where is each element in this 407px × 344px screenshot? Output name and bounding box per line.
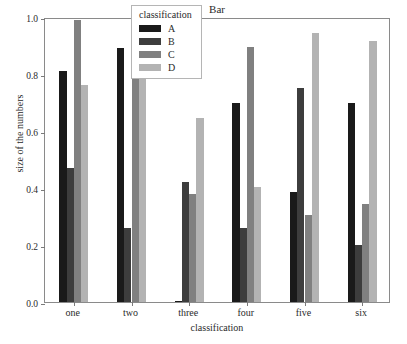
y-tick-mark xyxy=(41,19,45,20)
bar-six-B xyxy=(355,245,362,302)
bar-one-A xyxy=(59,71,66,302)
bar-six-D xyxy=(369,41,376,302)
y-tick-mark xyxy=(41,304,45,305)
y-tick-mark xyxy=(41,190,45,191)
x-tick-mark xyxy=(247,302,248,306)
legend-swatch-C xyxy=(139,51,161,58)
bar-two-B xyxy=(124,228,131,302)
legend: classification ABCD xyxy=(131,5,202,79)
y-axis-label: size of the numbers xyxy=(14,54,25,214)
legend-item-A: A xyxy=(139,22,192,35)
bar-one-B xyxy=(67,168,74,302)
x-tick-label: three xyxy=(158,307,218,318)
bar-five-A xyxy=(290,192,297,302)
x-tick-label: six xyxy=(331,307,391,318)
bar-one-D xyxy=(81,85,88,302)
bar-three-B xyxy=(182,182,189,302)
x-tick-label: two xyxy=(101,307,161,318)
legend-title: classification xyxy=(139,9,192,21)
y-tick-label: 0.2 xyxy=(11,243,38,252)
legend-swatch-A xyxy=(139,25,161,32)
bar-six-A xyxy=(348,103,355,303)
bar-four-A xyxy=(232,103,239,303)
plot-area: 0.00.20.40.60.81.0 xyxy=(44,18,390,303)
y-tick-mark xyxy=(41,247,45,248)
bar-three-C xyxy=(189,194,196,302)
chart-title: Bar xyxy=(44,2,390,16)
legend-swatch-D xyxy=(139,64,161,71)
legend-swatch-B xyxy=(139,38,161,45)
bar-four-B xyxy=(240,228,247,302)
x-axis-label: classification xyxy=(44,322,390,333)
legend-item-D: D xyxy=(139,61,192,74)
y-tick-label: 0.0 xyxy=(11,300,38,309)
legend-label-D: D xyxy=(168,62,175,73)
legend-label-B: B xyxy=(168,36,175,47)
bar-two-A xyxy=(117,48,124,302)
x-tick-mark xyxy=(189,302,190,306)
plot-inner xyxy=(45,19,389,302)
bar-four-C xyxy=(247,47,254,302)
bar-five-B xyxy=(297,88,304,302)
legend-label-A: A xyxy=(168,23,175,34)
bar-four-D xyxy=(254,187,261,302)
x-tick-mark xyxy=(305,302,306,306)
legend-item-B: B xyxy=(139,35,192,48)
bar-chart-figure: Bar 0.00.20.40.60.81.0 size of the numbe… xyxy=(0,0,407,344)
bar-three-A xyxy=(175,301,182,302)
y-tick-label: 1.0 xyxy=(11,15,38,24)
bar-five-C xyxy=(305,215,312,302)
x-tick-mark xyxy=(132,302,133,306)
x-tick-label: four xyxy=(216,307,276,318)
bar-three-D xyxy=(196,118,203,302)
x-tick-label: one xyxy=(43,307,103,318)
legend-item-C: C xyxy=(139,48,192,61)
bar-five-D xyxy=(312,33,319,302)
bar-one-C xyxy=(74,20,81,302)
y-tick-mark xyxy=(41,76,45,77)
legend-label-C: C xyxy=(168,49,175,60)
x-tick-mark xyxy=(362,302,363,306)
x-tick-label: five xyxy=(274,307,334,318)
bar-six-C xyxy=(362,204,369,302)
x-tick-mark xyxy=(74,302,75,306)
y-tick-mark xyxy=(41,133,45,134)
legend-rows: ABCD xyxy=(139,22,192,74)
